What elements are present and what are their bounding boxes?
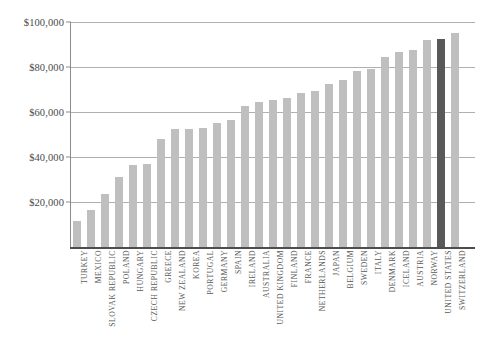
x-axis-category-label: TURKEY (80, 250, 89, 284)
bar-chart: $20,000$40,000$60,000$80,000$100,000 TUR… (0, 0, 488, 357)
y-axis-tick-label: $60,000 (0, 107, 64, 118)
bar[interactable] (101, 194, 109, 248)
bar[interactable] (325, 84, 333, 248)
bar[interactable] (283, 98, 291, 248)
bar[interactable] (423, 40, 431, 248)
x-axis-category-label: NEW ZEALAND (178, 250, 187, 311)
y-axis: $20,000$40,000$60,000$80,000$100,000 (0, 0, 64, 260)
x-axis-category-label: POLAND (122, 250, 131, 284)
y-axis-tick-label: $80,000 (0, 62, 64, 73)
bar[interactable] (297, 93, 305, 248)
y-axis-tick-mark (66, 22, 71, 23)
x-axis-category-label: UNITED STATES (444, 250, 453, 314)
bar[interactable] (129, 165, 137, 248)
x-axis-category-label: SPAIN (234, 250, 243, 274)
x-axis-category-label: DENMARK (388, 250, 397, 292)
bar[interactable] (395, 52, 403, 248)
x-axis-category-label: BELGIUM (346, 250, 355, 288)
x-axis-category-label: NETHERLANDS (318, 250, 327, 311)
x-axis-category-label: SWEDEN (360, 250, 369, 285)
x-axis-category-label: PORTUGAL (206, 250, 215, 294)
bar[interactable] (185, 129, 193, 248)
x-axis-category-label: GERMANY (220, 250, 229, 292)
y-axis-tick-label: $20,000 (0, 197, 64, 208)
bar[interactable] (409, 50, 417, 248)
bar[interactable] (353, 71, 361, 248)
bar[interactable] (73, 221, 81, 248)
x-axis-category-label: AUSTRIA (416, 250, 425, 287)
x-axis-category-label: SWITZERLAND (458, 250, 467, 310)
x-axis-category-label: NORWAY (430, 250, 439, 286)
bar[interactable] (115, 177, 123, 248)
bar[interactable] (311, 91, 319, 249)
y-axis-tick-mark (66, 157, 71, 158)
x-axis-category-label: ICELAND (402, 250, 411, 287)
x-axis-category-label: KOREA (192, 250, 201, 279)
x-axis-category-label: AUSTRALIA (262, 250, 271, 298)
y-axis-tick-label: $40,000 (0, 152, 64, 163)
y-axis-tick-mark (66, 112, 71, 113)
bars-container (71, 22, 475, 248)
bar[interactable] (255, 102, 263, 248)
x-axis-category-label: FINLAND (290, 250, 299, 287)
y-axis-tick-mark (66, 67, 71, 68)
x-axis-category-label: IRELAND (248, 250, 257, 287)
bar[interactable] (241, 106, 249, 248)
x-axis-category-label: ITALY (374, 250, 383, 274)
x-axis-category-label: HUNGARY (136, 250, 145, 291)
bar[interactable] (171, 129, 179, 248)
y-axis-tick-mark (66, 202, 71, 203)
x-axis-category-label: CZECH REPUBLIC (150, 250, 159, 321)
x-axis-category-label: UNITED KINGDOM (276, 250, 285, 325)
bar[interactable] (87, 210, 95, 248)
bar[interactable] (381, 57, 389, 248)
bar[interactable] (451, 33, 459, 248)
bar[interactable] (339, 80, 347, 248)
bar[interactable] (213, 123, 221, 248)
x-axis-labels: TURKEYMEXICOSLOVAK REPUBLICPOLANDHUNGARY… (71, 250, 475, 354)
bar[interactable] (269, 100, 277, 248)
x-axis-category-label: MEXICO (94, 250, 103, 283)
x-axis-category-label: SLOVAK REPUBLIC (108, 250, 117, 327)
x-axis-category-label: FRANCE (304, 250, 313, 283)
bar[interactable] (367, 69, 375, 248)
x-axis-category-label: JAPAN (332, 250, 341, 276)
x-axis-category-label: GREECE (164, 250, 173, 283)
bar[interactable] (227, 120, 235, 248)
bar[interactable] (157, 139, 165, 248)
bar-highlighted[interactable] (437, 39, 445, 248)
bar[interactable] (199, 128, 207, 248)
bar[interactable] (143, 164, 151, 248)
x-axis-line (70, 247, 475, 249)
y-axis-tick-label: $100,000 (0, 17, 64, 28)
